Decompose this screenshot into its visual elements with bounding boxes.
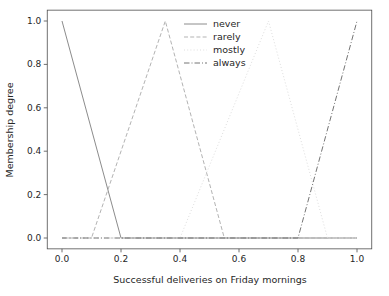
- x-tick-label: 0.2: [114, 254, 128, 264]
- plot-border: [47, 10, 372, 249]
- figure: 0.00.20.40.60.81.00.00.20.40.60.81.0 nev…: [0, 0, 389, 296]
- x-tick-label: 0.0: [55, 254, 70, 264]
- y-tick-label: 0.6: [27, 103, 42, 113]
- plot-area: 0.00.20.40.60.81.00.00.20.40.60.81.0: [27, 10, 372, 264]
- y-tick-label: 0.2: [27, 190, 41, 200]
- series-line-never: [62, 21, 357, 238]
- x-tick-label: 0.4: [173, 254, 188, 264]
- y-tick-label: 0.8: [27, 59, 42, 69]
- series-line-rarely: [62, 21, 357, 238]
- y-tick-label: 0.0: [27, 233, 42, 243]
- y-tick-label: 1.0: [27, 16, 42, 26]
- legend-label-rarely: rarely: [213, 31, 241, 42]
- legend: neverrarelymostlyalways: [184, 18, 246, 68]
- series-line-always: [62, 21, 357, 238]
- legend-item-never: never: [184, 18, 240, 29]
- legend-item-mostly: mostly: [184, 44, 245, 55]
- membership-chart: 0.00.20.40.60.81.00.00.20.40.60.81.0 nev…: [0, 0, 389, 296]
- legend-item-always: always: [184, 57, 246, 68]
- y-axis-label: Membership degree: [4, 82, 15, 177]
- x-tick-label: 0.8: [291, 254, 306, 264]
- legend-label-always: always: [213, 57, 246, 68]
- legend-label-mostly: mostly: [213, 44, 245, 55]
- legend-label-never: never: [213, 18, 240, 29]
- x-tick-label: 1.0: [350, 254, 365, 264]
- legend-item-rarely: rarely: [184, 31, 241, 42]
- x-axis-label: Successful deliveries on Friday mornings: [113, 274, 306, 285]
- series-line-mostly: [62, 21, 357, 238]
- x-tick-label: 0.6: [232, 254, 247, 264]
- y-tick-label: 0.4: [27, 146, 42, 156]
